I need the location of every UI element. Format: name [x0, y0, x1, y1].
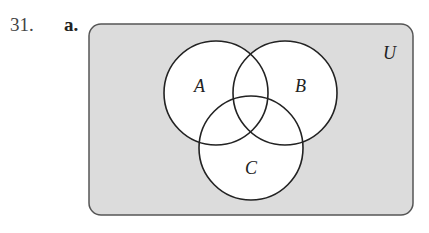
venn-diagram: A B C U: [0, 0, 429, 233]
set-c-label: C: [245, 158, 258, 178]
universe-label: U: [383, 43, 397, 63]
set-a-label: A: [193, 76, 206, 96]
set-b-label: B: [295, 76, 306, 96]
